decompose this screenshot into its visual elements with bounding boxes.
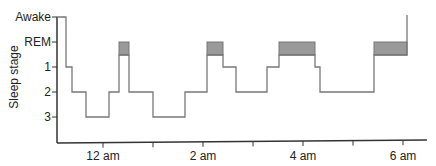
y-axis: AwakeREM123 — [15, 10, 57, 143]
y-axis-title: Sleep stage — [7, 45, 21, 109]
x-tick-label: 12 am — [86, 149, 119, 163]
rem-period-shading — [119, 42, 129, 55]
rem-period-shading — [279, 42, 315, 55]
rem-period-shading — [207, 42, 223, 55]
y-tick-label: 3 — [44, 110, 51, 124]
sleep-stage-line — [57, 15, 407, 117]
y-tick-label: 1 — [44, 60, 51, 74]
rem-period-shading — [374, 42, 407, 55]
rem-shading — [119, 42, 407, 55]
x-axis: 12 am2 am4 am6 am — [57, 140, 427, 163]
sleep-stage-chart: AwakeREM123 12 am2 am4 am6 am Sleep stag… — [0, 0, 436, 166]
x-tick-label: 2 am — [190, 149, 217, 163]
x-tick-label: 4 am — [290, 149, 317, 163]
y-tick-label: Awake — [15, 10, 51, 24]
y-tick-label: REM — [24, 35, 51, 49]
y-tick-label: 2 — [44, 85, 51, 99]
x-tick-label: 6 am — [390, 149, 417, 163]
